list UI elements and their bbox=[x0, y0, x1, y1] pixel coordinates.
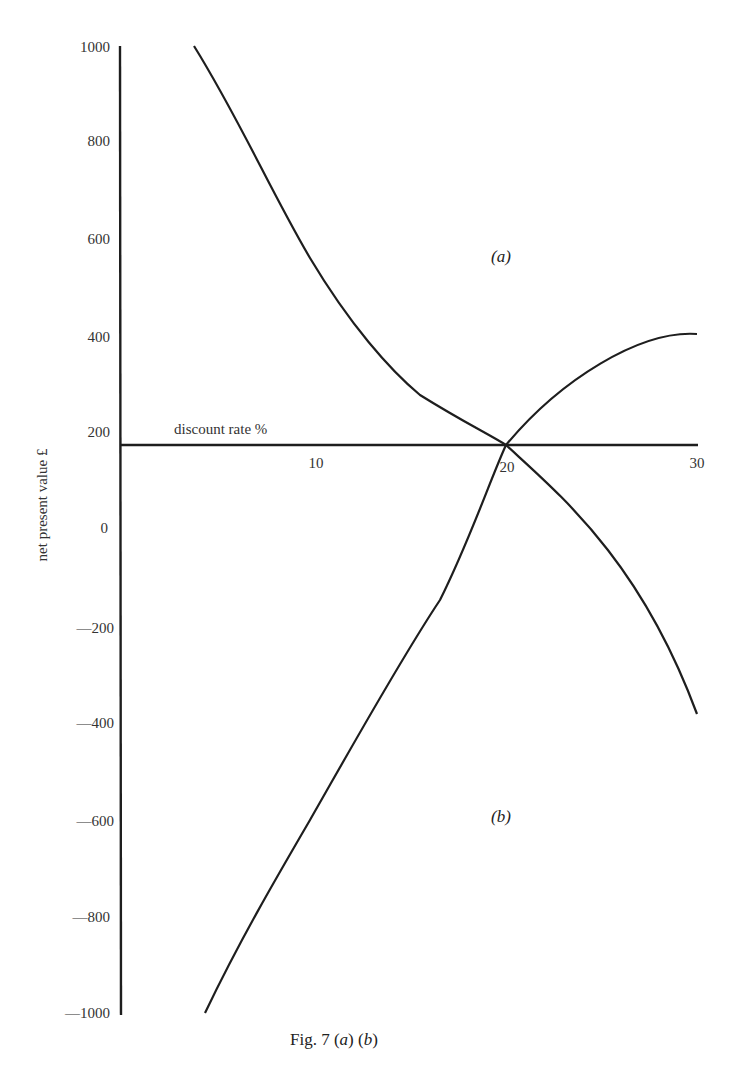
y-tick: —800 bbox=[72, 909, 111, 925]
y-tick: 600 bbox=[88, 231, 111, 247]
y-tick: 0 bbox=[101, 520, 109, 536]
x-tick: 20 bbox=[500, 459, 515, 475]
y-tick: —200 bbox=[76, 620, 115, 636]
y-axis bbox=[120, 46, 121, 1015]
y-tick: —400 bbox=[76, 715, 115, 731]
y-tick: —600 bbox=[76, 813, 115, 829]
npv-chart: 1000 800 600 400 200 0 —200 —400 —600 —8… bbox=[0, 0, 740, 1078]
y-tick: 1000 bbox=[80, 39, 110, 55]
x-tick: 10 bbox=[309, 455, 324, 471]
y-tick: 200 bbox=[88, 424, 111, 440]
series-a-curve bbox=[194, 46, 697, 714]
y-tick-labels: 1000 800 600 400 200 0 —200 —400 —600 —8… bbox=[64, 39, 114, 1021]
x-axis-label: discount rate % bbox=[174, 421, 267, 437]
y-axis-label: net present value £ bbox=[34, 448, 50, 561]
y-tick: 800 bbox=[88, 133, 111, 149]
series-a-label: (a) bbox=[491, 247, 511, 266]
series-b-label: (b) bbox=[491, 807, 511, 826]
figure-caption: Fig. 7 (a) (b) bbox=[290, 1030, 378, 1050]
series-b-curve bbox=[205, 334, 697, 1013]
x-tick-labels: 10 20 30 bbox=[309, 455, 705, 475]
y-tick: —1000 bbox=[64, 1005, 110, 1021]
x-tick: 30 bbox=[690, 455, 705, 471]
y-tick: 400 bbox=[88, 329, 111, 345]
